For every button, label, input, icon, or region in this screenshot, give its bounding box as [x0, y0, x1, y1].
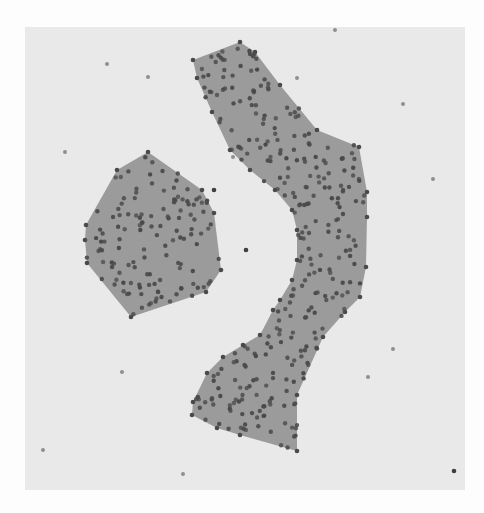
cluster-point: [307, 231, 311, 235]
cluster-point: [121, 289, 125, 293]
cluster-point: [196, 286, 200, 290]
cluster-point: [322, 176, 326, 180]
cluster-point: [307, 132, 311, 136]
cluster-point: [308, 257, 312, 261]
cluster-point: [212, 374, 216, 378]
cluster-point: [172, 186, 176, 190]
cluster-point: [341, 188, 345, 192]
cluster-point: [315, 346, 319, 350]
cluster-point: [162, 188, 166, 192]
cluster-point: [268, 159, 272, 163]
cluster-point: [242, 363, 246, 367]
cluster-point: [258, 146, 262, 150]
cluster-point: [164, 253, 168, 257]
cluster-point: [251, 378, 255, 382]
cluster-point: [303, 160, 307, 164]
noise-point: [391, 347, 395, 351]
cluster-point: [94, 236, 98, 240]
cluster-point: [83, 238, 88, 243]
cluster-point: [247, 138, 251, 142]
cluster-point: [120, 201, 124, 205]
cluster-point: [290, 278, 295, 283]
cluster-point: [303, 348, 307, 352]
cluster-point: [119, 175, 123, 179]
cluster-point: [283, 193, 287, 197]
cluster-point: [201, 74, 205, 78]
cluster-point: [143, 155, 147, 159]
cluster-point: [361, 200, 365, 204]
cluster-point: [308, 174, 312, 178]
cluster-point: [84, 223, 89, 228]
cluster-point: [307, 247, 311, 251]
cluster-point: [247, 49, 251, 53]
cluster-point: [210, 110, 215, 115]
cluster-point: [348, 280, 352, 284]
cluster-point: [278, 328, 282, 332]
cluster-point: [110, 265, 114, 269]
cluster-point: [262, 77, 266, 81]
cluster-point: [334, 218, 338, 222]
cluster-point: [271, 376, 275, 380]
cluster-point: [320, 326, 324, 330]
cluster-point: [203, 400, 207, 404]
cluster-point: [95, 209, 99, 213]
cluster-point: [219, 268, 224, 273]
cluster-point: [154, 296, 158, 300]
cluster-point: [142, 247, 146, 251]
cluster-point: [352, 157, 356, 161]
cluster-point: [286, 166, 290, 170]
cluster-point: [194, 397, 198, 401]
cluster-point: [146, 150, 151, 155]
cluster-point: [152, 282, 156, 286]
cluster-point: [304, 225, 308, 229]
cluster-point: [293, 433, 297, 437]
cluster-point: [266, 334, 270, 338]
cluster-point: [364, 265, 369, 270]
cluster-point: [268, 402, 272, 406]
cluster-point: [305, 361, 309, 365]
cluster-point: [195, 242, 199, 246]
cluster-point: [265, 139, 269, 143]
cluster-point: [264, 352, 268, 356]
cluster-point: [312, 330, 316, 334]
cluster-point: [249, 69, 253, 73]
cluster-point: [284, 389, 288, 393]
cluster-point: [265, 341, 269, 345]
cluster-point: [293, 195, 297, 199]
cluster-point: [292, 148, 296, 152]
cluster-point: [232, 360, 236, 364]
cluster-point: [313, 291, 317, 295]
cluster-point: [251, 88, 255, 92]
cluster-point: [243, 344, 247, 348]
cluster-point: [228, 403, 232, 407]
cluster-point: [114, 278, 118, 282]
cluster-point: [215, 93, 219, 97]
cluster-point: [111, 215, 115, 219]
cluster-point: [221, 75, 225, 79]
cluster-point: [278, 83, 283, 88]
cluster-point: [307, 272, 311, 276]
outlier-point: [212, 188, 217, 193]
cluster-point: [339, 184, 343, 188]
cluster-point: [247, 384, 251, 388]
cluster-point: [273, 126, 277, 130]
cluster-point: [277, 318, 281, 322]
cluster-point: [218, 394, 222, 398]
cluster-point: [102, 239, 106, 243]
noise-point: [41, 448, 45, 452]
cluster-point: [234, 398, 238, 402]
cluster-point: [203, 418, 207, 422]
cluster-point: [297, 106, 301, 110]
cluster-point: [209, 90, 213, 94]
cluster-point: [206, 73, 210, 77]
cluster-point: [190, 294, 194, 298]
cluster-point: [304, 344, 308, 348]
cluster-point: [273, 132, 277, 136]
cluster-point: [180, 197, 184, 201]
cluster-point: [211, 402, 215, 406]
cluster-point: [347, 185, 351, 189]
cluster-point: [283, 421, 287, 425]
cluster-point: [131, 312, 135, 316]
cluster-point: [298, 259, 302, 263]
cluster-point: [300, 254, 304, 258]
